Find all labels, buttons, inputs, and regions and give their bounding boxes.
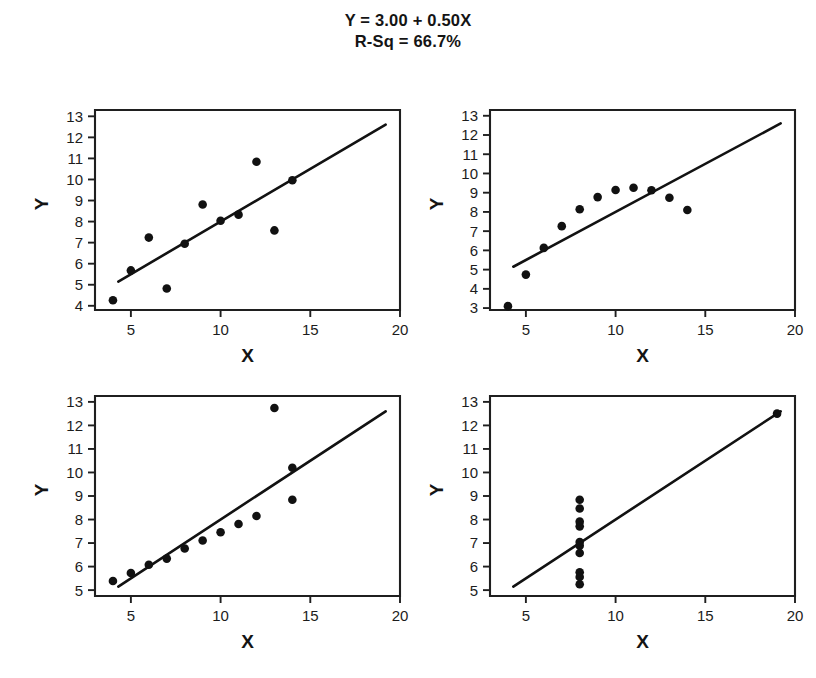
data-point xyxy=(522,270,531,279)
svg-text:13: 13 xyxy=(461,107,478,124)
data-point xyxy=(252,157,261,166)
data-point xyxy=(270,226,279,235)
plot-area-top-right: 3456789101112135101520 xyxy=(490,110,795,310)
y-tick: 13 xyxy=(461,393,490,410)
svg-text:13: 13 xyxy=(66,393,83,410)
data-point xyxy=(557,222,566,231)
svg-text:20: 20 xyxy=(787,607,804,624)
x-tick: 15 xyxy=(697,310,714,338)
y-axis-title-bottom-right: Y xyxy=(426,484,448,497)
y-tick: 11 xyxy=(462,146,490,163)
plot-area-bottom-right: 56789101112135101520 xyxy=(490,396,795,596)
svg-text:4: 4 xyxy=(75,297,83,314)
y-tick: 13 xyxy=(461,107,490,124)
data-point xyxy=(629,183,638,192)
svg-text:20: 20 xyxy=(392,321,409,338)
svg-text:15: 15 xyxy=(697,607,714,624)
svg-text:11: 11 xyxy=(462,440,478,457)
regression-line xyxy=(513,411,780,586)
data-point xyxy=(216,528,225,537)
data-point xyxy=(198,536,207,545)
svg-text:10: 10 xyxy=(66,171,83,188)
x-tick: 10 xyxy=(607,596,624,624)
data-point xyxy=(575,573,584,582)
svg-text:6: 6 xyxy=(75,558,83,575)
svg-text:11: 11 xyxy=(67,150,83,167)
y-tick: 10 xyxy=(461,464,490,481)
data-point xyxy=(162,554,171,563)
svg-text:10: 10 xyxy=(66,464,83,481)
y-tick: 11 xyxy=(462,440,490,457)
svg-text:12: 12 xyxy=(461,126,478,143)
y-tick: 5 xyxy=(470,261,490,278)
y-tick: 7 xyxy=(470,223,490,240)
svg-text:9: 9 xyxy=(75,487,83,504)
data-point xyxy=(575,504,584,513)
y-tick: 7 xyxy=(75,234,95,251)
x-tick: 15 xyxy=(697,596,714,624)
y-tick: 12 xyxy=(66,417,95,434)
svg-text:8: 8 xyxy=(470,203,478,220)
data-point xyxy=(665,193,674,202)
svg-text:12: 12 xyxy=(461,417,478,434)
data-point xyxy=(180,239,189,248)
y-tick: 12 xyxy=(66,129,95,146)
svg-text:8: 8 xyxy=(75,213,83,230)
svg-text:15: 15 xyxy=(697,321,714,338)
x-axis-title-bottom-left: X xyxy=(95,631,400,653)
svg-text:5: 5 xyxy=(127,607,135,624)
y-tick: 9 xyxy=(75,487,95,504)
svg-text:5: 5 xyxy=(127,321,135,338)
panel-bottom-left: 56789101112135101520 xyxy=(95,396,400,596)
svg-text:5: 5 xyxy=(522,321,530,338)
x-tick: 20 xyxy=(392,310,409,338)
x-tick: 10 xyxy=(212,310,229,338)
y-tick: 12 xyxy=(461,126,490,143)
x-tick: 20 xyxy=(787,310,804,338)
data-point xyxy=(575,517,584,526)
svg-text:5: 5 xyxy=(522,607,530,624)
svg-text:7: 7 xyxy=(470,223,478,240)
data-point xyxy=(109,577,118,586)
y-axis-title-top-left: Y xyxy=(31,198,53,211)
y-tick: 4 xyxy=(470,280,490,297)
y-tick: 4 xyxy=(75,297,95,314)
svg-text:20: 20 xyxy=(787,321,804,338)
data-point xyxy=(288,495,297,504)
data-point xyxy=(216,216,225,225)
y-axis-title-top-right: Y xyxy=(426,198,448,211)
svg-text:6: 6 xyxy=(75,255,83,272)
data-point xyxy=(162,284,171,293)
data-point xyxy=(575,495,584,504)
svg-text:12: 12 xyxy=(66,129,83,146)
figure-title: Y = 3.00 + 0.50X R-Sq = 66.7% xyxy=(0,10,816,52)
svg-text:13: 13 xyxy=(461,393,478,410)
y-tick: 11 xyxy=(67,440,95,457)
title-r-squared: R-Sq = 66.7% xyxy=(0,31,816,52)
y-tick: 5 xyxy=(470,582,490,599)
svg-text:11: 11 xyxy=(67,440,83,457)
data-point xyxy=(252,512,261,521)
regression-line xyxy=(118,411,385,586)
regression-line xyxy=(118,125,385,282)
data-point xyxy=(270,404,279,413)
svg-text:8: 8 xyxy=(470,511,478,528)
x-tick: 10 xyxy=(607,310,624,338)
data-point xyxy=(575,541,584,550)
x-axis-title-bottom-right: X xyxy=(490,631,795,653)
panel-bottom-right: 56789101112135101520 xyxy=(490,396,795,596)
y-tick: 7 xyxy=(470,534,490,551)
svg-text:15: 15 xyxy=(302,607,319,624)
data-point xyxy=(683,206,692,215)
svg-text:3: 3 xyxy=(470,299,478,316)
svg-text:13: 13 xyxy=(66,108,83,125)
y-tick: 9 xyxy=(470,487,490,504)
data-point xyxy=(145,233,154,242)
y-tick: 5 xyxy=(75,582,95,599)
data-point xyxy=(593,193,602,202)
data-point xyxy=(288,463,297,472)
y-tick: 8 xyxy=(75,213,95,230)
data-point xyxy=(109,296,118,305)
data-point xyxy=(540,244,549,253)
x-tick: 15 xyxy=(302,596,319,624)
